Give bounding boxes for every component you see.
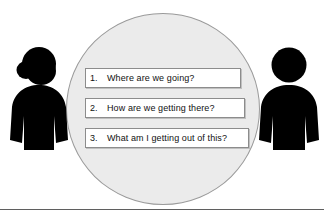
person-icon [258, 44, 320, 150]
question-text: Where are we going? [107, 73, 194, 83]
question-list: 1. Where are we going? 2. How are we get… [85, 68, 250, 148]
question-box[interactable]: 1. Where are we going? [85, 68, 241, 88]
question-box[interactable]: 3. What am I getting out of this? [85, 128, 249, 148]
person-with-ponytail-icon [8, 44, 70, 150]
question-text: How are we getting there? [107, 103, 215, 113]
bottom-rule [0, 209, 324, 210]
question-number: 3. [90, 133, 107, 143]
diagram-canvas: 1. Where are we going? 2. How are we get… [0, 0, 324, 221]
question-text: What am I getting out of this? [107, 133, 227, 143]
question-number: 1. [90, 73, 107, 83]
question-number: 2. [90, 103, 107, 113]
question-box[interactable]: 2. How are we getting there? [85, 98, 245, 118]
